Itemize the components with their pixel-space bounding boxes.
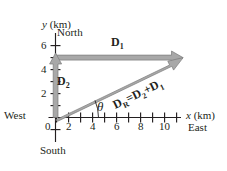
vector-D1-label: D1 (111, 36, 124, 51)
vector-D2-label: D2 (57, 75, 70, 90)
x-tick-label-0: 0 (45, 121, 51, 132)
x-tick-label-2: 2 (66, 121, 72, 132)
compass-east-label: East (188, 122, 207, 133)
compass-north-label: North (57, 27, 83, 38)
vector-D2-label-sub: 2 (66, 81, 70, 90)
vector-D2-label-base: D (57, 74, 66, 88)
y-tick-label-2: 2 (41, 88, 47, 99)
vector-D1-label-base: D (111, 35, 120, 49)
x-tick-label-8: 8 (138, 121, 144, 132)
x-axis-label-unit: (km) (191, 109, 215, 121)
vector-D1-label-sub: 1 (120, 42, 124, 51)
x-tick-label-10: 10 (159, 121, 170, 132)
x-tick-label-4: 4 (90, 121, 96, 132)
x-axis-label: x (km) (186, 110, 215, 121)
compass-south-label: South (40, 145, 66, 156)
diagram-canvas: .axisline{stroke:#231f20;stroke-width:1.… (0, 0, 227, 171)
compass-west-label: West (4, 110, 26, 121)
y-tick-label-4: 4 (41, 64, 47, 75)
vector-D1-arrow (56, 51, 184, 64)
x-tick-label-6: 6 (114, 121, 120, 132)
angle-theta-label: θ (97, 100, 103, 113)
vector-diagram-figure: .axisline{stroke:#231f20;stroke-width:1.… (0, 0, 227, 171)
y-tick-label-6: 6 (41, 40, 47, 51)
